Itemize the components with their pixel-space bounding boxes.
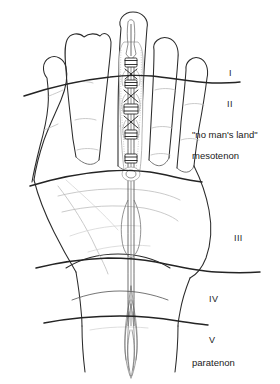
label-no-mans-land: "no man's land" bbox=[192, 129, 258, 140]
label-zone-1: I bbox=[229, 68, 232, 78]
annular-pulley-a4 bbox=[125, 58, 137, 67]
label-paratenon: paratenon bbox=[192, 357, 235, 368]
annular-pulley-proximal bbox=[125, 154, 137, 163]
label-zone-4: IV bbox=[209, 294, 218, 304]
label-mesotenon: mesotenon bbox=[192, 150, 239, 161]
annular-pulley-a1 bbox=[125, 130, 137, 139]
sheath-proximal-mouth bbox=[122, 167, 140, 181]
label-zone-5: V bbox=[209, 335, 215, 345]
annular-pulley-a3 bbox=[125, 80, 137, 88]
annular-pulley-a2 bbox=[124, 104, 138, 114]
diagram-canvas: I II "no man's land" mesotenon III IV V … bbox=[0, 0, 280, 384]
label-zone-2: II bbox=[227, 99, 233, 109]
hand-flexor-zone-diagram: I II "no man's land" mesotenon III IV V … bbox=[0, 0, 280, 384]
label-zone-3: III bbox=[234, 233, 243, 243]
